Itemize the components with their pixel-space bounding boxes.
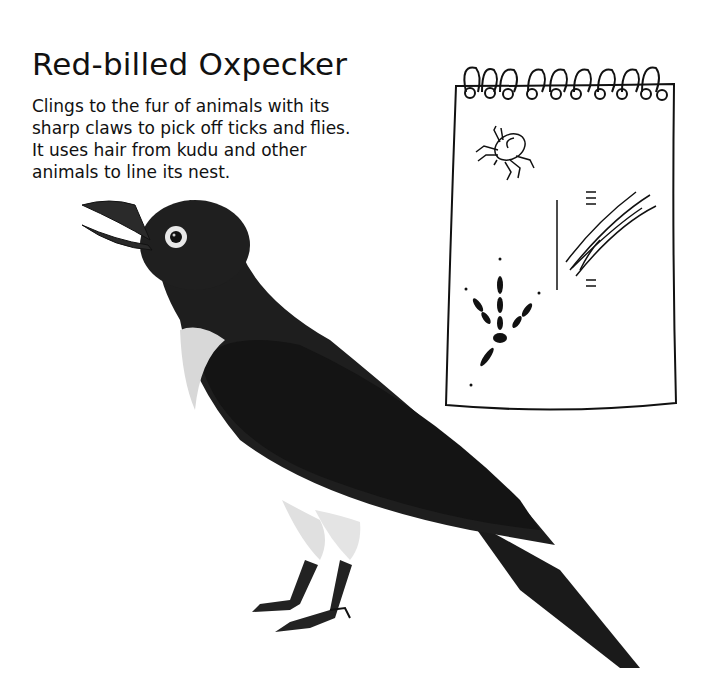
spiral-notebook-sketch-icon: [446, 68, 676, 410]
illustration-canvas: [0, 0, 704, 682]
